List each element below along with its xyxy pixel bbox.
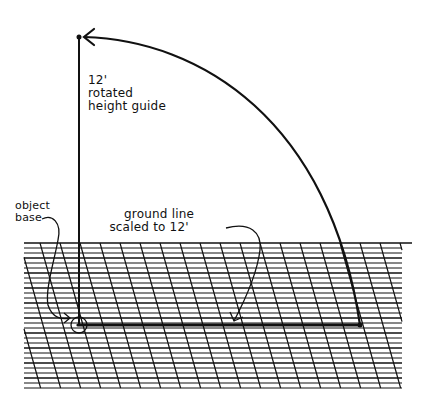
diagram-canvas [0,0,433,412]
height-guide-label: 12' rotated height guide [88,74,166,113]
height-guide-label-line-3: height guide [88,100,166,113]
ground-grid [24,243,412,388]
object-base-label-line-2: base [15,212,50,224]
object-base-label: object base [15,200,50,224]
ground-line-label: ground line scaled to 12' [104,208,194,234]
height-guide-top-dot [77,35,82,40]
ground-line-label-line-2: scaled to 12' [104,221,194,234]
